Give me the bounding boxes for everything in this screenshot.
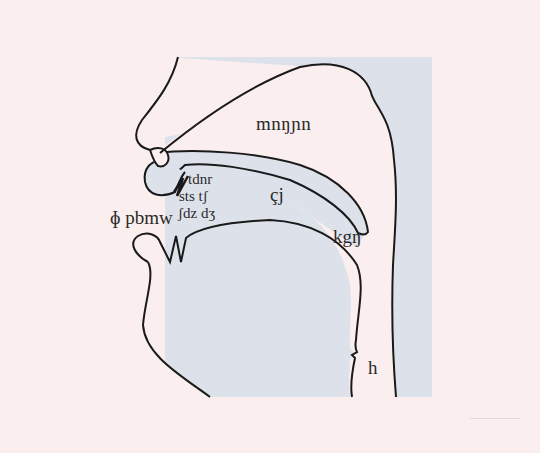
- nasal-consonants-label: mnŋɲn: [256, 114, 311, 133]
- alveolar-row2-label: sts tʃ: [179, 189, 208, 204]
- alveolar-row1-label: tdnr: [188, 172, 212, 187]
- labial-consonants-label: ɸ pbmw: [110, 208, 173, 227]
- alveolar-row3-label: ʃdz dʒ: [178, 206, 215, 221]
- palatal-consonants-label: çj: [270, 185, 284, 204]
- glottal-consonant-label: h: [368, 358, 378, 377]
- vocal-tract-diagram: [0, 0, 540, 453]
- decorative-line: [470, 418, 520, 419]
- velar-consonants-label: kgŋ: [333, 227, 361, 246]
